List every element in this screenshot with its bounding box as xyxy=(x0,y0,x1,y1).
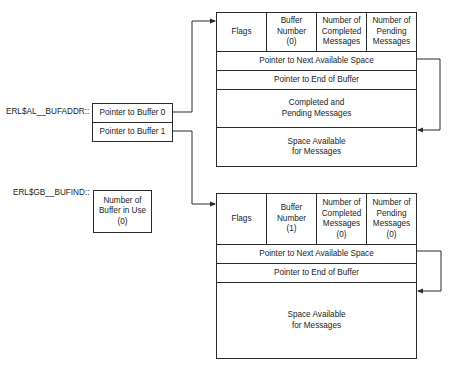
buffer1-number: Buffer Number (1) xyxy=(267,194,317,244)
buffer1-pending-count: Number of Pending Messages (0) xyxy=(367,194,416,244)
pointer-to-buffer-0: Pointer to Buffer 0 xyxy=(93,104,172,123)
buffer-in-use-box: Number of Buffer in Use (0) xyxy=(93,190,152,233)
buffer0-end-of-buffer: Pointer to End of Buffer xyxy=(217,70,416,89)
pointer-to-buffer-1: Pointer to Buffer 1 xyxy=(93,123,172,141)
buffer1-space-available: Space Available for Messages xyxy=(217,282,416,358)
arrow-buffer0-next-space xyxy=(416,59,440,130)
arrow-buffer1 xyxy=(172,131,215,204)
buffer1-flags: Flags xyxy=(217,194,267,244)
buffer0-number: Buffer Number (0) xyxy=(267,13,317,51)
buffer1-end-of-buffer: Pointer to End of Buffer xyxy=(217,263,416,282)
bufind-label: ERL$GB__BUFIND:: xyxy=(13,188,89,197)
arrow-buffer0 xyxy=(172,21,215,112)
buffer1-next-space: Pointer to Next Available Space xyxy=(217,244,416,263)
buffer0-flags: Flags xyxy=(217,13,267,51)
arrow-buffer1-next-space xyxy=(416,251,441,291)
buffer1-completed-count: Number of Completed Messages (0) xyxy=(317,194,367,244)
buffer0-space-available: Space Available for Messages xyxy=(217,127,416,166)
buffer0-pending-count: Number of Pending Messages xyxy=(367,13,416,51)
bufaddr-label: ERL$AL__BUFADDR:: xyxy=(6,107,89,116)
buffer0-completed-count: Number of Completed Messages xyxy=(317,13,367,51)
buffer0-next-space: Pointer to Next Available Space xyxy=(217,51,416,70)
buffer0-completed-pending: Completed and Pending Messages xyxy=(217,89,416,127)
buffer-0: Flags Buffer Number (0) Number of Comple… xyxy=(216,12,417,167)
pointer-table: Pointer to Buffer 0 Pointer to Buffer 1 xyxy=(92,103,173,142)
buffer-1: Flags Buffer Number (1) Number of Comple… xyxy=(216,193,417,359)
